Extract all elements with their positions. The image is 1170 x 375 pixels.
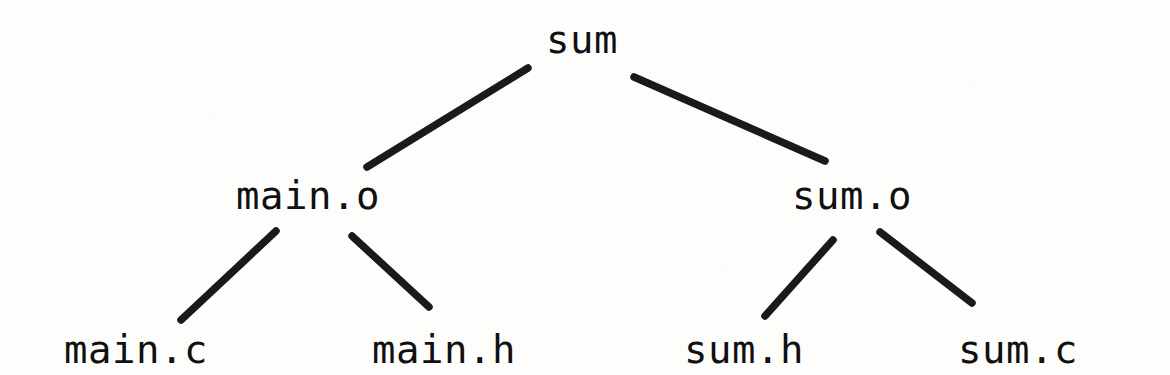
dependency-tree-diagram: summain.osum.omain.cmain.hsum.hsum.c (0, 0, 1170, 375)
tree-edge (634, 77, 825, 161)
tree-edge (880, 232, 972, 303)
tree-node-sum-o: sum.o (792, 176, 912, 215)
tree-node-main-o: main.o (236, 176, 380, 215)
tree-edge (367, 68, 528, 167)
tree-edge (181, 231, 276, 320)
tree-node-main-c: main.c (64, 330, 208, 369)
tree-node-main-h: main.h (372, 330, 516, 369)
tree-edge (765, 240, 833, 316)
tree-edge (352, 236, 429, 307)
tree-node-sum-h: sum.h (684, 330, 804, 369)
tree-node-sum: sum (546, 20, 618, 59)
tree-node-sum-c: sum.c (958, 330, 1078, 369)
